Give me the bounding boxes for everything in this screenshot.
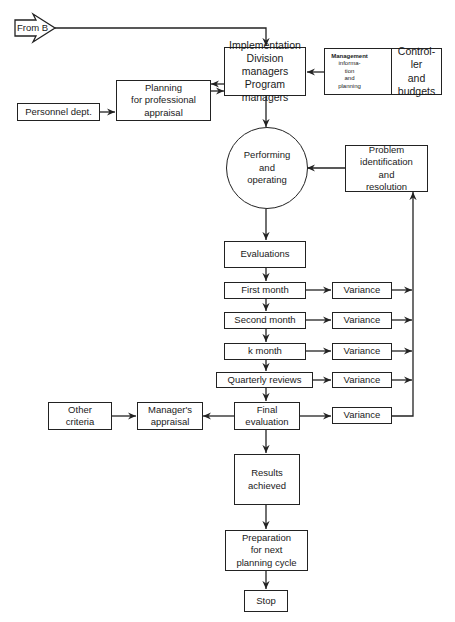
node-text: Variance bbox=[344, 374, 381, 386]
node-text: Final bbox=[245, 404, 288, 416]
node-text: Variance bbox=[344, 314, 381, 326]
evaluations-node: Evaluations bbox=[224, 241, 306, 268]
stop-node: Stop bbox=[244, 590, 288, 612]
node-text: Variance bbox=[344, 409, 381, 421]
node-text: for next bbox=[236, 544, 296, 556]
node-text: Variance bbox=[344, 345, 381, 357]
variance-node: Variance bbox=[332, 343, 392, 360]
second-month-node: Second month bbox=[224, 312, 306, 329]
problem-node: Problem identification and resolution bbox=[345, 145, 428, 192]
k-month-node: k month bbox=[224, 343, 306, 360]
node-text: Management bbox=[331, 53, 368, 61]
node-text: Evaluations bbox=[240, 248, 289, 260]
node-text: for professional bbox=[131, 94, 196, 106]
node-text: First month bbox=[241, 284, 289, 296]
node-text: Division managers bbox=[225, 52, 305, 78]
final-evaluation-node: Final evaluation bbox=[234, 402, 300, 430]
node-text: tion bbox=[331, 68, 368, 76]
planning-node: Planning for professional appraisal bbox=[116, 80, 211, 121]
results-achieved-node: Results achieved bbox=[234, 454, 300, 505]
node-text: Program managers bbox=[225, 78, 305, 104]
node-text: Manager's bbox=[148, 404, 192, 416]
node-text: planning cycle bbox=[236, 557, 296, 569]
from-b-label: From B bbox=[17, 22, 48, 33]
quarterly-reviews-node: Quarterly reviews bbox=[216, 372, 313, 388]
node-text: Variance bbox=[344, 284, 381, 296]
node-text: Performing bbox=[244, 149, 290, 161]
other-criteria-node: Other criteria bbox=[48, 402, 112, 430]
node-text: Planning bbox=[131, 82, 196, 94]
controller-node: Control- ler and budgets bbox=[391, 48, 442, 95]
node-text: Other bbox=[66, 404, 95, 416]
node-text: operating bbox=[244, 174, 290, 186]
variance-node: Variance bbox=[332, 407, 392, 424]
node-text: resolution bbox=[360, 181, 413, 193]
variance-node: Variance bbox=[332, 372, 392, 388]
node-text: Preparation bbox=[236, 532, 296, 544]
node-text: appraisal bbox=[131, 107, 196, 119]
node-text: informa- bbox=[331, 60, 368, 68]
first-month-node: First month bbox=[224, 282, 306, 299]
management-arrow-panel bbox=[374, 48, 392, 95]
preparation-node: Preparation for next planning cycle bbox=[225, 530, 308, 571]
node-text: Problem bbox=[360, 144, 413, 156]
node-text: Control- bbox=[398, 45, 435, 58]
node-text: and bbox=[398, 72, 435, 85]
node-text: Results bbox=[248, 467, 286, 479]
node-text: planning bbox=[331, 83, 368, 91]
node-text: Implementation bbox=[225, 39, 305, 52]
node-text: budgets bbox=[398, 85, 435, 98]
node-text: achieved bbox=[248, 480, 286, 492]
node-text: k month bbox=[248, 345, 282, 357]
node-text: appraisal bbox=[148, 416, 192, 428]
variance-node: Variance bbox=[332, 312, 392, 329]
management-info-node: Management informa- tion and planning bbox=[324, 48, 375, 95]
node-text: and bbox=[244, 162, 290, 174]
node-text: ler bbox=[398, 58, 435, 71]
managers-appraisal-node: Manager's appraisal bbox=[137, 402, 203, 430]
node-text: and bbox=[360, 169, 413, 181]
node-text: criteria bbox=[66, 416, 95, 428]
personnel-node: Personnel dept. bbox=[17, 103, 100, 121]
performing-node: Performing and operating bbox=[226, 127, 308, 209]
node-text: evaluation bbox=[245, 416, 288, 428]
implementation-node: Implementation Division managers Program… bbox=[224, 47, 306, 96]
node-text: and bbox=[331, 75, 368, 83]
variance-node: Variance bbox=[332, 282, 392, 299]
node-text: Personnel dept. bbox=[25, 106, 92, 118]
node-text: Stop bbox=[256, 595, 276, 607]
node-text: identification bbox=[360, 156, 413, 168]
node-text: Quarterly reviews bbox=[228, 374, 302, 386]
node-text: Second month bbox=[234, 314, 295, 326]
